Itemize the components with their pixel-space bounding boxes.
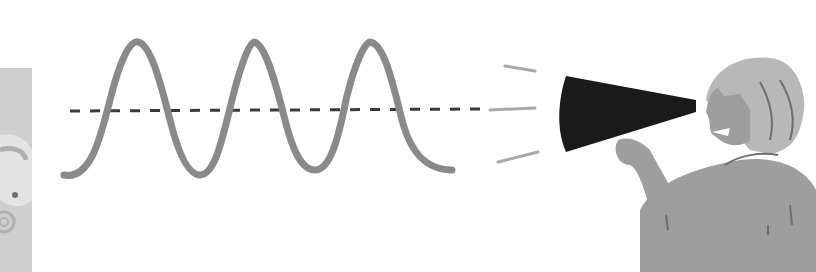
illustration: [0, 0, 816, 272]
wave-axis-line: [70, 109, 480, 111]
left-decorative-panel: [0, 68, 32, 272]
shouting-person: [616, 57, 816, 272]
sound-lines: [490, 66, 538, 162]
